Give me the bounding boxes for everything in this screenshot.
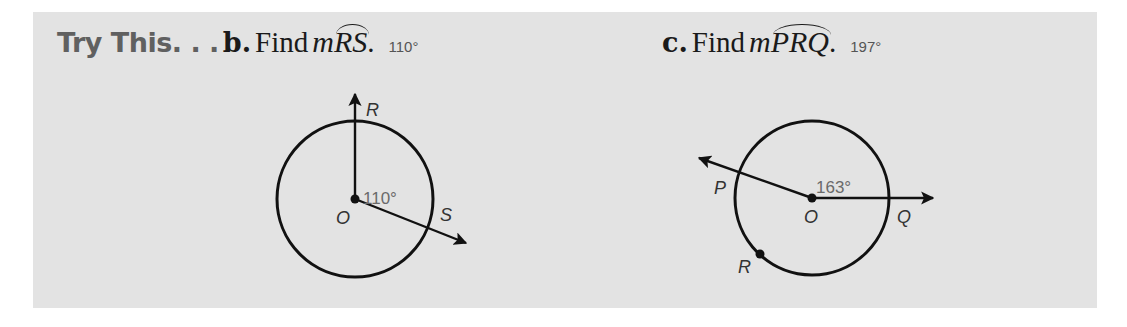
label-o-b: O — [336, 208, 350, 228]
label-q-c: Q — [897, 207, 911, 227]
label-r-c: R — [738, 257, 751, 277]
label-o-c: O — [804, 207, 818, 227]
label-r-b: R — [366, 100, 379, 120]
figure-c-circle-diagram: P R Q O 163° — [699, 121, 933, 277]
angle-label-c: 163° — [816, 178, 851, 197]
label-s-b: S — [440, 205, 452, 225]
center-point-b — [351, 195, 360, 204]
angle-label-b: 110° — [363, 189, 397, 208]
label-p-c: P — [714, 178, 726, 198]
figure-b-circle-diagram: R S O 110° — [277, 94, 466, 277]
point-r-c — [756, 250, 765, 259]
figures: R S O 110° P R Q O 163° — [0, 0, 1127, 327]
